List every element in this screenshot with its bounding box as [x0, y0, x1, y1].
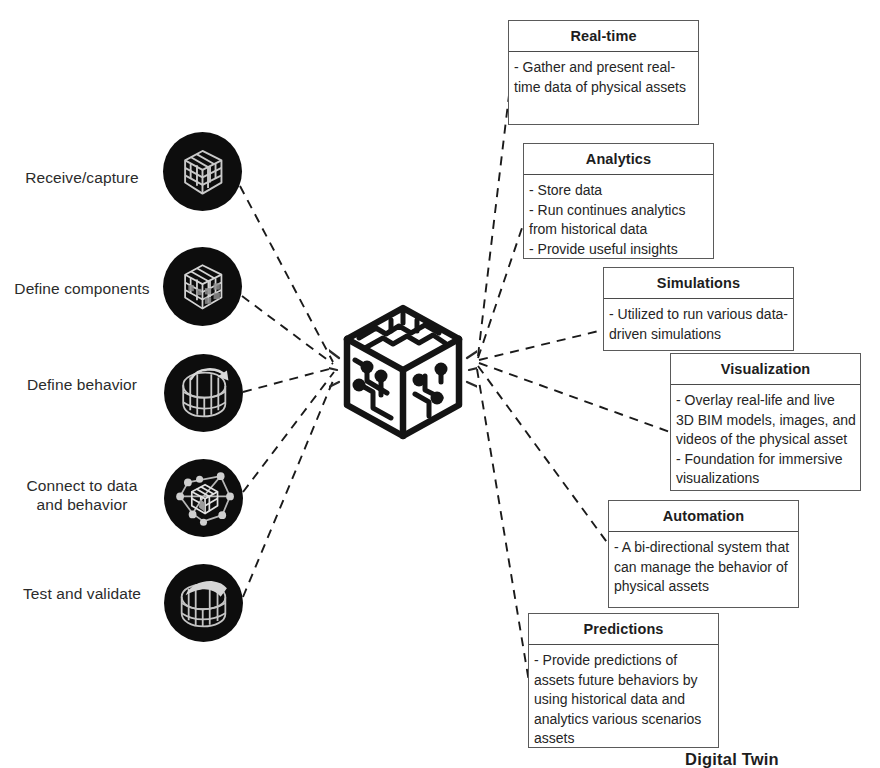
cube-rotate-arrow-icon	[164, 354, 243, 432]
capability-card-real-time[interactable]: Real-time - Gather and present real-time…	[508, 20, 699, 125]
diagram-canvas: Receive/capture Define components Define…	[0, 0, 880, 768]
cube-check-icon	[164, 564, 243, 642]
card-line: - Run continues analytics from historica…	[529, 201, 709, 240]
connector-real-time	[478, 95, 509, 356]
step-label-receive-capture: Receive/capture	[12, 168, 152, 187]
connector-connect-data	[243, 372, 334, 492]
card-body-automation: - A bi-directional system that can manag…	[609, 532, 798, 601]
step-label-define-components: Define components	[6, 279, 158, 298]
card-title-automation: Automation	[609, 501, 798, 532]
connector-predictions	[477, 369, 529, 682]
connector-test-validate	[243, 376, 335, 597]
card-body-predictions: - Provide predictions of assets future b…	[529, 645, 718, 753]
capability-card-analytics[interactable]: Analytics - Store data - Run continues a…	[523, 143, 714, 259]
circuit-cube-icon	[329, 298, 477, 446]
cube-grid-icon	[163, 132, 242, 211]
step-label-connect-to-data: Connect to data and behavior	[14, 476, 150, 514]
card-title-analytics: Analytics	[524, 144, 713, 175]
card-line: - A bi-directional system that can manag…	[614, 538, 794, 597]
card-body-real-time: - Gather and present real-time data of p…	[509, 52, 698, 101]
card-title-simulations: Simulations	[604, 268, 793, 299]
card-title-predictions: Predictions	[529, 614, 718, 645]
connector-visualization	[479, 363, 670, 432]
connector-define-behavior	[243, 368, 333, 392]
card-body-analytics: - Store data - Run continues analytics f…	[524, 175, 713, 263]
connector-define-components	[242, 296, 333, 364]
card-body-simulations: - Utilized to run various data-driven si…	[604, 299, 793, 348]
card-title-real-time: Real-time	[509, 21, 698, 52]
capability-card-simulations[interactable]: Simulations - Utilized to run various da…	[603, 267, 794, 351]
card-title-visualization: Visualization	[671, 354, 860, 385]
card-line: - Foundation for immersive visualization…	[676, 450, 856, 489]
connector-analytics	[478, 222, 524, 358]
card-body-visualization: - Overlay real-life and live 3D BIM mode…	[671, 385, 860, 493]
card-line: - Provide predictions of assets future b…	[534, 651, 714, 749]
card-line: - Overlay real-life and live 3D BIM mode…	[676, 391, 856, 450]
capability-card-predictions[interactable]: Predictions - Provide predictions of ass…	[528, 613, 719, 748]
connector-automation	[478, 366, 609, 545]
step-label-define-behavior: Define behavior	[12, 375, 152, 394]
capability-card-automation[interactable]: Automation - A bi-directional system tha…	[608, 500, 799, 608]
card-line: - Provide useful insights	[529, 240, 709, 260]
capability-card-visualization[interactable]: Visualization - Overlay real-life and li…	[670, 353, 861, 491]
card-line: - Gather and present real-time data of p…	[514, 58, 694, 97]
connector-receive-capture	[240, 186, 333, 362]
digital-twin-node: Digital Twin	[329, 298, 477, 463]
card-line: - Store data	[529, 181, 709, 201]
digital-twin-caption: Digital Twin	[639, 750, 825, 768]
cube-network-nodes-icon	[164, 459, 243, 537]
step-label-test-and-validate: Test and validate	[12, 584, 152, 603]
connector-simulations	[479, 330, 603, 360]
card-line: - Utilized to run various data-driven si…	[609, 305, 789, 344]
cube-components-icon	[163, 247, 242, 326]
